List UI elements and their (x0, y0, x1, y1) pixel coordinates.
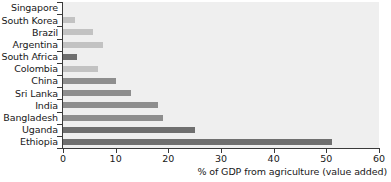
bar (63, 66, 98, 72)
y-axis-label: India (0, 99, 62, 111)
y-axis-label: Uganda (0, 124, 62, 136)
y-axis-line (62, 2, 63, 149)
bar (63, 139, 332, 145)
bar-row (63, 124, 379, 136)
bar-row (63, 63, 379, 75)
bar (63, 127, 195, 133)
y-axis-tick (57, 99, 62, 100)
bar-row (63, 2, 379, 14)
x-axis-tick-label: 20 (162, 154, 174, 164)
y-axis-label-list: Singapore South Korea Brazil Argentina S… (0, 2, 62, 148)
x-axis-tick-label: 60 (373, 154, 385, 164)
y-axis-label: Ethiopia (0, 136, 62, 148)
y-axis-tick (57, 112, 62, 113)
x-axis-tick-label: 40 (268, 154, 280, 164)
bar-row (63, 112, 379, 124)
bar (63, 54, 77, 60)
y-axis-tick (57, 63, 62, 64)
y-axis-label: Brazil (0, 26, 62, 38)
plot-area (63, 2, 379, 148)
bar-row (63, 75, 379, 87)
x-axis-tick-label: 30 (215, 154, 227, 164)
bar (63, 90, 131, 96)
y-axis-tick (57, 87, 62, 88)
bar-row (63, 39, 379, 51)
y-axis-tick (57, 124, 62, 125)
bar (63, 29, 93, 35)
bar-row (63, 26, 379, 38)
y-axis-label: China (0, 75, 62, 87)
x-axis-tick-label: 50 (320, 154, 332, 164)
x-axis-caption: % of GDP from agriculture (value added) (197, 167, 387, 177)
y-axis-tick (57, 2, 62, 3)
bar-chart: Singapore South Korea Brazil Argentina S… (0, 0, 391, 182)
bar-row (63, 51, 379, 63)
y-axis-tick (57, 14, 62, 15)
y-axis-label: Bangladesh (0, 112, 62, 124)
y-axis-tick (57, 26, 62, 27)
x-axis-tick-label: 0 (60, 154, 66, 164)
y-axis-tick (57, 39, 62, 40)
y-axis-tick (57, 136, 62, 137)
y-axis-tick (57, 75, 62, 76)
bar (63, 78, 116, 84)
y-axis-label: Colombia (0, 63, 62, 75)
bars-layer (63, 2, 379, 148)
bar (63, 102, 158, 108)
y-axis-tick (57, 148, 62, 149)
y-axis-label: South Africa (0, 51, 62, 63)
bar (63, 115, 163, 121)
bar (63, 42, 103, 48)
bar (63, 17, 75, 23)
y-axis-tick (57, 51, 62, 52)
bar-row (63, 99, 379, 111)
y-axis-label: Singapore (0, 2, 62, 14)
y-axis-label: Sri Lanka (0, 87, 62, 99)
x-axis-tick-label: 10 (110, 154, 122, 164)
bar-row (63, 136, 379, 148)
bar-row (63, 14, 379, 26)
y-axis-label: South Korea (0, 14, 62, 26)
bar-row (63, 87, 379, 99)
y-axis-label: Argentina (0, 39, 62, 51)
